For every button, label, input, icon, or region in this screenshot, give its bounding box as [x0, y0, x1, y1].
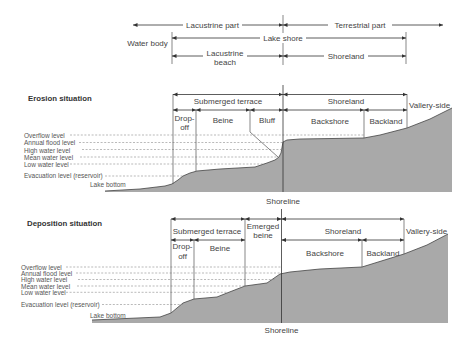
erosion-situation-panel: Erosion situation Overflow level Annual … [24, 85, 452, 206]
top-zone-legend: Lacustrine part Terrestrial part Lake sh… [127, 15, 443, 67]
erosion-bluff-label: Bluff [259, 116, 276, 125]
erosion-shoreland-label: Shoreland [328, 97, 364, 106]
lake-shore-zonation-diagram: Lacustrine part Terrestrial part Lake sh… [0, 0, 474, 344]
erosion-drop-off-label-line1: Drop- [174, 114, 194, 123]
lacustrine-beach-label-line1: Lacustrine [207, 49, 244, 58]
erosion-beine-label: Beine [213, 116, 234, 125]
deposition-beine-label: Beine [210, 244, 231, 253]
deposition-backshore-label: Backshore [306, 249, 344, 258]
deposition-drop-off-label-line2: off [178, 252, 188, 261]
erosion-vallery-side-label: Vallery-side [409, 101, 451, 110]
water-body-label: Water body [127, 39, 168, 48]
erosion-backland-label: Backland [370, 117, 403, 126]
erosion-shoreline-label: Shoreline [266, 197, 300, 206]
erosion-annual-flood-level-label: Annual flood level [24, 139, 76, 146]
deposition-backland-label: Backland [367, 249, 400, 258]
deposition-drop-off-label-line1: Drop- [172, 242, 192, 251]
deposition-terrain-profile [92, 234, 448, 323]
erosion-drop-off-label-line2: off [180, 123, 190, 132]
deposition-vallery-side-label: Vallery-side [406, 227, 448, 236]
lacustrine-beach-label-line2: beach [214, 58, 236, 67]
erosion-mean-water-level-label: Mean water level [24, 154, 74, 161]
deposition-title: Deposition situation [27, 219, 102, 228]
deposition-emerged-beine-label-line2: beine [253, 231, 273, 240]
erosion-evacuation-level-label: Evacuation level (reservoir) [24, 172, 103, 180]
deposition-shoreland-label: Shoreland [325, 227, 361, 236]
deposition-lake-bottom-label: Lake bottom [90, 312, 126, 319]
deposition-situation-panel: Deposition situation Overflow level Annu… [21, 209, 448, 335]
lacustrine-part-label: Lacustrine part [186, 21, 240, 30]
erosion-backshore-label: Backshore [311, 117, 349, 126]
erosion-lake-bottom-label: Lake bottom [90, 181, 126, 188]
deposition-low-water-level-label: Low water level [21, 289, 66, 296]
deposition-emerged-beine-label-line1: Emerged [247, 222, 279, 231]
erosion-low-water-level-label: Low water level [24, 161, 69, 168]
erosion-title: Erosion situation [28, 94, 92, 103]
deposition-shoreline-label: Shoreline [265, 326, 299, 335]
lake-shore-label: Lake shore [263, 34, 303, 43]
erosion-overflow-level-label: Overflow level [24, 132, 65, 139]
erosion-submerged-terrace-label: Submerged terrace [194, 97, 263, 106]
terrestrial-part-label: Terrestrial part [334, 21, 386, 30]
deposition-evacuation-level-label: Evacuation level (reservoir) [21, 301, 100, 309]
shoreland-label: Shoreland [328, 52, 364, 61]
deposition-submerged-terrace-label: Submerged terrace [173, 227, 242, 236]
